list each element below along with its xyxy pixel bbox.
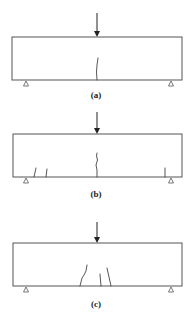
crack-left-1-b <box>34 168 36 177</box>
load-arrow-head-icon <box>94 31 100 37</box>
load-arrow-head-icon <box>94 237 100 243</box>
right-support-icon <box>169 81 174 86</box>
crack-left-2-b <box>46 169 47 177</box>
panel-c <box>13 222 182 292</box>
crack-midspan-a <box>97 58 99 80</box>
right-support-icon <box>169 287 174 292</box>
panel-label-c: (c) <box>0 299 192 309</box>
panel-b <box>13 112 182 183</box>
crack-midspan-c <box>100 274 101 286</box>
panel-a <box>12 13 182 86</box>
left-support-icon <box>24 81 29 86</box>
crack-inclined-right-c <box>107 268 111 286</box>
crack-midspan-b <box>96 153 98 177</box>
panel-label-b: (b) <box>0 189 192 199</box>
right-support-icon <box>169 178 174 183</box>
load-arrow-head-icon <box>94 128 100 134</box>
crack-inclined-left-c <box>80 265 87 286</box>
beam-crack-diagram <box>0 0 192 330</box>
left-support-icon <box>24 178 29 183</box>
panel-label-a: (a) <box>0 90 192 100</box>
left-support-icon <box>24 287 29 292</box>
beam-b <box>13 134 182 177</box>
beam-c <box>13 243 182 286</box>
